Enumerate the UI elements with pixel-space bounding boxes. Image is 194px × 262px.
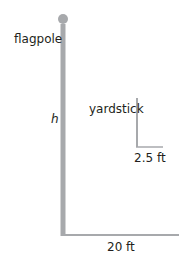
flagpole-shadow-label: 20 ft (107, 240, 135, 254)
height-label: h (51, 112, 59, 126)
flagpole-top-ball (58, 14, 68, 24)
flagpole-label: flagpole (14, 32, 62, 46)
yardstick-label: yardstick (89, 102, 144, 116)
yardstick-shadow-label: 2.5 ft (134, 151, 166, 165)
